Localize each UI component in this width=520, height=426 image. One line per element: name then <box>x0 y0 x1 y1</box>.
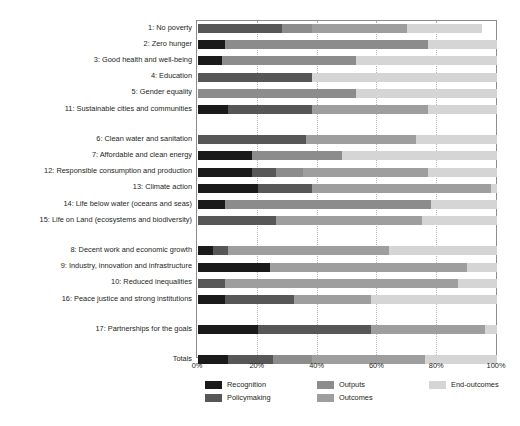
bar-segment-end-outcomes <box>356 89 497 98</box>
bar-segment-outcomes <box>312 105 429 114</box>
bar-row <box>197 325 496 334</box>
bar-segment-end-outcomes <box>342 151 497 160</box>
bar-segment-recognition <box>198 325 258 334</box>
bar-segment-policymaking <box>198 73 312 82</box>
bar-segment-outcomes <box>303 168 429 177</box>
bar-segment-outcomes <box>371 325 485 334</box>
bar-row <box>197 56 496 65</box>
bar-segment-outputs <box>282 24 312 33</box>
category-label: 8: Decent work and economic growth <box>0 245 192 254</box>
bar-row <box>197 89 496 98</box>
bar-row <box>197 246 496 255</box>
bar-segment-outcomes <box>270 263 467 272</box>
bar-segment-end-outcomes <box>371 295 497 304</box>
bar-row <box>197 200 496 209</box>
category-label: 15: Life on Land (ecosystems and biodive… <box>0 215 192 224</box>
bar-segment-recognition <box>198 151 252 160</box>
bar-segment-outcomes <box>312 24 408 33</box>
bar-segment-policymaking <box>258 184 312 193</box>
bar-segment-outputs <box>225 40 428 49</box>
bar-segment-recognition <box>198 105 228 114</box>
bar-segment-policymaking <box>198 216 276 225</box>
stacked-bar-chart: 1: No poverty2: Zero hunger3: Good healt… <box>0 0 520 426</box>
bar-row <box>197 184 496 193</box>
legend-swatch-icon <box>317 394 334 402</box>
bar-row <box>197 24 496 33</box>
x-axis: 0%20%40%60%80%100% <box>196 359 497 373</box>
bar-segment-recognition <box>198 168 252 177</box>
category-label: 17: Partnerships for the goals <box>0 324 192 333</box>
category-label: 14: Life below water (oceans and seas) <box>0 199 192 208</box>
bar-segment-policymaking <box>228 105 312 114</box>
bar-row <box>197 279 496 288</box>
legend-swatch-icon <box>205 394 222 402</box>
bar-segment-end-outcomes <box>356 56 497 65</box>
legend-item-policymaking[interactable]: Policymaking <box>205 392 271 403</box>
legend-item-outcomes[interactable]: Outcomes <box>317 392 373 403</box>
bar-segment-policymaking <box>258 325 372 334</box>
bar-row <box>197 168 496 177</box>
bar-row <box>197 135 496 144</box>
x-tick-label: 100% <box>487 361 506 370</box>
bar-segment-recognition <box>198 184 258 193</box>
bar-segment-policymaking <box>213 246 228 255</box>
bar-row <box>197 216 496 225</box>
category-label: 1: No poverty <box>0 23 192 32</box>
bar-segment-end-outcomes <box>428 168 497 177</box>
x-tick-label: 40% <box>309 361 324 370</box>
category-label: 16: Peace justice and strong institution… <box>0 294 192 303</box>
legend-swatch-icon <box>205 381 222 389</box>
bar-segment-outputs <box>225 200 431 209</box>
bar-segment-policymaking <box>198 24 282 33</box>
plot-area <box>196 20 497 358</box>
bar-segment-end-outcomes <box>491 184 497 193</box>
bar-segment-end-outcomes <box>416 135 497 144</box>
category-label: 12: Responsible consumption and producti… <box>0 166 192 175</box>
bar-row <box>197 40 496 49</box>
legend-swatch-icon <box>429 381 446 389</box>
bar-segment-outputs <box>198 89 356 98</box>
bar-segment-end-outcomes <box>458 279 497 288</box>
bar-row <box>197 73 496 82</box>
bar-row <box>197 105 496 114</box>
bar-rows <box>197 21 496 357</box>
legend-label: Outputs <box>339 380 365 389</box>
legend-item-end-outcomes[interactable]: End-outcomes <box>429 379 499 390</box>
legend-label: Recognition <box>227 380 266 389</box>
legend-label: Policymaking <box>227 393 271 402</box>
category-label: 13: Climate action <box>0 182 192 191</box>
bar-segment-policymaking <box>198 279 225 288</box>
bar-row <box>197 151 496 160</box>
category-label: 11: Sustainable cities and communities <box>0 104 192 113</box>
bar-segment-end-outcomes <box>485 325 497 334</box>
legend-item-recognition[interactable]: Recognition <box>205 379 266 390</box>
bar-segment-policymaking <box>198 135 306 144</box>
bar-segment-outcomes <box>276 216 423 225</box>
legend-label: Outcomes <box>339 393 373 402</box>
bar-row <box>197 263 496 272</box>
bar-segment-recognition <box>198 40 225 49</box>
x-tick-label: 20% <box>249 361 264 370</box>
x-tick-label: 0% <box>192 361 203 370</box>
category-label: 10: Reduced inequalities <box>0 277 192 286</box>
category-label: 7: Affordable and clean energy <box>0 150 192 159</box>
bar-segment-end-outcomes <box>422 216 497 225</box>
bar-segment-recognition <box>198 200 225 209</box>
category-axis-labels: 1: No poverty2: Zero hunger3: Good healt… <box>0 20 192 358</box>
bar-segment-outputs <box>252 151 342 160</box>
category-label: 6: Clean water and sanitation <box>0 134 192 143</box>
category-label: 4: Education <box>0 71 192 80</box>
bar-segment-end-outcomes <box>407 24 482 33</box>
bar-segment-end-outcomes <box>467 263 497 272</box>
legend-swatch-icon <box>317 381 334 389</box>
bar-row <box>197 295 496 304</box>
category-label: 2: Zero hunger <box>0 39 192 48</box>
bar-segment-recognition <box>198 56 222 65</box>
bar-segment-outcomes <box>225 279 458 288</box>
legend-item-outputs[interactable]: Outputs <box>317 379 365 390</box>
bar-segment-policymaking <box>252 168 276 177</box>
x-tick-label: 80% <box>429 361 444 370</box>
category-label: Totals <box>0 354 192 363</box>
bar-segment-recognition <box>198 295 225 304</box>
bar-segment-end-outcomes <box>389 246 497 255</box>
